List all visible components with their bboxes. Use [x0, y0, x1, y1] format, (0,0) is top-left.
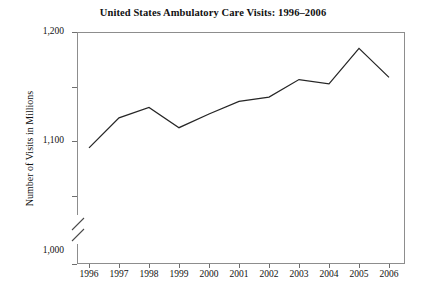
- y-axis-tick-label: 1,100: [43, 137, 64, 147]
- y-axis-tick: 0: [72, 264, 77, 265]
- x-axis-tick-label: 1999: [170, 270, 189, 280]
- y-axis-tick-label: 1,000: [43, 246, 64, 256]
- x-axis-tick: [119, 264, 120, 268]
- y-axis-title: Number of Visits in Millions: [24, 64, 35, 234]
- x-axis-tick-label: 2003: [290, 270, 309, 280]
- x-axis-tick: [359, 264, 360, 268]
- x-axis-tick-label: 2001: [230, 270, 249, 280]
- plot-area: 1,2001,1001,0009900 19961997199819992000…: [77, 32, 405, 264]
- chart-figure: United States Ambulatory Care Visits: 19…: [0, 0, 426, 299]
- x-axis-tick: [179, 264, 180, 268]
- x-axis-tick-label: 2006: [380, 270, 399, 280]
- data-series-line: [77, 32, 405, 264]
- x-axis-tick: [329, 264, 330, 268]
- x-axis-tick: [89, 264, 90, 268]
- x-axis-tick: [269, 264, 270, 268]
- y-axis-tick-label: 1,200: [43, 27, 64, 37]
- x-axis-tick: [299, 264, 300, 268]
- x-axis-tick-label: 2005: [350, 270, 369, 280]
- x-axis-tick: [389, 264, 390, 268]
- x-axis-tick-label: 1997: [110, 270, 129, 280]
- data-line-path: [89, 48, 389, 147]
- x-axis-tick-label: 1998: [140, 270, 159, 280]
- x-axis-tick: [209, 264, 210, 268]
- x-axis-tick-label: 2000: [200, 270, 219, 280]
- chart-title: United States Ambulatory Care Visits: 19…: [0, 7, 426, 18]
- x-axis-tick-label: 2004: [320, 270, 339, 280]
- x-axis-tick: [149, 264, 150, 268]
- x-axis-tick: [239, 264, 240, 268]
- x-axis-tick-label: 1996: [80, 270, 99, 280]
- x-axis-tick-label: 2002: [260, 270, 279, 280]
